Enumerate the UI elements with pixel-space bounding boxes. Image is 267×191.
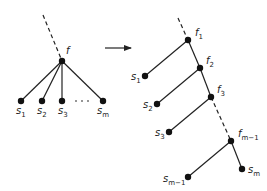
label-s2-right: s2 bbox=[143, 100, 153, 113]
label-s1-right: s1 bbox=[131, 72, 141, 85]
label-s3: s3 bbox=[58, 106, 68, 119]
edge bbox=[62, 61, 103, 101]
edge bbox=[145, 40, 188, 76]
node-fm-1 bbox=[228, 138, 234, 144]
label-fm-1: fm−1 bbox=[238, 129, 259, 142]
dashed-parent-edge bbox=[178, 18, 188, 40]
label-f: f bbox=[66, 46, 70, 56]
edge bbox=[188, 141, 231, 177]
tree-transformation-diagram: f s1 s2 s3 sm f1 f2 f3 fm−1 s1 s2 s3 sm−… bbox=[0, 0, 267, 191]
node-f bbox=[59, 58, 65, 64]
node-f3 bbox=[208, 94, 214, 100]
edge bbox=[157, 68, 200, 104]
diagram-graphics bbox=[0, 0, 267, 191]
label-f2: f2 bbox=[206, 56, 214, 69]
node-sm bbox=[239, 166, 245, 172]
label-sm-right: sm bbox=[248, 165, 260, 178]
node-f2 bbox=[197, 65, 203, 71]
spine-edge bbox=[188, 40, 200, 68]
label-f1: f1 bbox=[195, 28, 203, 41]
node-f1 bbox=[185, 37, 191, 43]
node-s2 bbox=[154, 101, 160, 107]
ellipsis-dot bbox=[75, 100, 77, 102]
edge bbox=[169, 97, 211, 132]
node-s3 bbox=[166, 129, 172, 135]
edge bbox=[21, 61, 62, 101]
label-s3-right: s3 bbox=[155, 128, 165, 141]
edge bbox=[42, 61, 62, 101]
label-s1: s1 bbox=[16, 106, 26, 119]
right-nodes bbox=[142, 37, 245, 180]
node-s1 bbox=[18, 98, 24, 104]
node-s2 bbox=[39, 98, 45, 104]
node-s1 bbox=[142, 73, 148, 79]
node-sm bbox=[100, 98, 106, 104]
label-f3: f3 bbox=[217, 85, 225, 98]
node-sm-1 bbox=[185, 174, 191, 180]
spine-edge bbox=[231, 141, 242, 169]
spine-edge bbox=[200, 68, 211, 97]
label-sm: sm bbox=[97, 106, 109, 119]
ellipsis-dot bbox=[81, 100, 83, 102]
dashed-parent-edge bbox=[43, 15, 62, 61]
label-s2: s2 bbox=[37, 106, 47, 119]
ellipsis-dot bbox=[87, 100, 89, 102]
label-sm-1-right: sm−1 bbox=[163, 174, 185, 187]
node-s3 bbox=[59, 98, 65, 104]
dashed-spine-edge bbox=[211, 97, 231, 141]
right-tree bbox=[145, 18, 242, 177]
